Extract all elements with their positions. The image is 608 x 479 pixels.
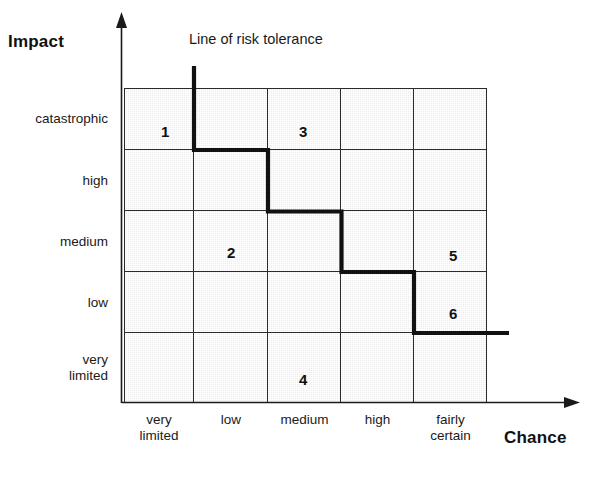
matrix-cell-r4c3[interactable]: [268, 272, 341, 333]
matrix-cell-label-r1c1: 1: [161, 123, 169, 140]
matrix-cell-r5c3[interactable]: 4: [268, 333, 341, 403]
y-tick-catastrophic-label: catastrophic: [35, 111, 108, 127]
x-tick-medium-label: medium: [268, 412, 341, 428]
matrix-cell-r1c1[interactable]: 1: [124, 88, 194, 150]
matrix-cell-r2c5[interactable]: [414, 150, 487, 211]
matrix-cell-r1c5[interactable]: [414, 88, 487, 150]
matrix-cell-r5c2[interactable]: [194, 333, 268, 403]
x-tick-fairly-certain: fairly certain: [414, 412, 487, 444]
matrix-cell-r3c4[interactable]: [341, 211, 414, 272]
matrix-cell-label-r3c5: 5: [449, 247, 457, 264]
matrix-cell-r3c3[interactable]: [268, 211, 341, 272]
x-tick-low-label: low: [194, 412, 268, 428]
matrix-cell-r5c1[interactable]: [124, 333, 194, 403]
matrix-cell-r4c4[interactable]: [341, 272, 414, 333]
matrix-cell-label-r3c2: 2: [227, 244, 235, 261]
x-tick-low: low: [194, 412, 268, 428]
matrix-cell-r5c4[interactable]: [341, 333, 414, 403]
matrix-cell-r3c5[interactable]: 5: [414, 211, 487, 272]
risk-matrix-grid: 1 3: [124, 88, 487, 403]
y-tick-medium-label: medium: [60, 234, 108, 250]
matrix-cell-r5c5[interactable]: [414, 333, 487, 403]
matrix-cell-r2c2[interactable]: [194, 150, 268, 211]
matrix-cell-r2c1[interactable]: [124, 150, 194, 211]
y-tick-low-label: low: [88, 295, 108, 311]
x-tick-fairly-certain-label-line1: fairly: [414, 412, 487, 428]
x-tick-very-limited-label-line1: very: [124, 412, 194, 428]
x-tick-medium: medium: [268, 412, 341, 428]
matrix-cell-r3c1[interactable]: [124, 211, 194, 272]
matrix-cell-r4c1[interactable]: [124, 272, 194, 333]
risk-tolerance-line-caption: Line of risk tolerance: [189, 31, 323, 47]
x-tick-high: high: [341, 412, 414, 428]
y-axis-title: Impact: [8, 32, 64, 52]
x-tick-fairly-certain-label-line2: certain: [414, 428, 487, 444]
x-tick-high-label: high: [341, 412, 414, 428]
matrix-cell-r2c4[interactable]: [341, 150, 414, 211]
matrix-cell-r1c4[interactable]: [341, 88, 414, 150]
x-tick-very-limited-label-line2: limited: [124, 428, 194, 444]
risk-tolerance-matrix-diagram: Impact Chance Line of risk tolerance cat…: [0, 0, 608, 479]
y-tick-catastrophic: catastrophic: [0, 88, 112, 150]
matrix-cell-r4c5[interactable]: 6: [414, 272, 487, 333]
y-tick-very-limited-label-line1: very: [69, 352, 108, 368]
x-tick-very-limited: very limited: [124, 412, 194, 444]
y-tick-very-limited: very limited: [0, 333, 112, 403]
matrix-cell-r4c2[interactable]: [194, 272, 268, 333]
y-tick-medium: medium: [0, 211, 112, 272]
matrix-cell-label-r4c5: 6: [449, 305, 457, 322]
matrix-cell-r1c3[interactable]: 3: [268, 88, 341, 150]
matrix-cell-r2c3[interactable]: [268, 150, 341, 211]
y-tick-low: low: [0, 272, 112, 333]
y-tick-high-label: high: [82, 173, 108, 189]
matrix-cell-label-r5c3: 4: [299, 371, 307, 388]
matrix-cell-r1c2[interactable]: [194, 88, 268, 150]
y-tick-high: high: [0, 150, 112, 211]
matrix-cell-r3c2[interactable]: 2: [194, 211, 268, 272]
y-tick-very-limited-label-line2: limited: [69, 368, 108, 384]
matrix-cell-label-r1c3: 3: [299, 123, 307, 140]
x-axis-title: Chance: [504, 428, 567, 448]
